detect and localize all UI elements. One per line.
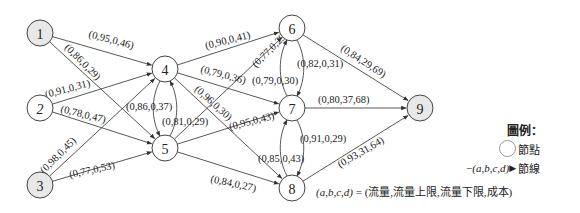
node-label: 2 — [37, 102, 44, 117]
node-label: 6 — [289, 22, 296, 37]
network-flow-diagram: (0,95,0,46)(0,86,0,29)(0,91,0,31)(0,78,0… — [0, 0, 580, 213]
edge-label-2-4: (0,91,0,31) — [44, 77, 92, 101]
node-1: 1 — [27, 20, 53, 46]
edge-label-6-7: (0,82,0,31) — [297, 58, 344, 70]
edge-7-6 — [280, 40, 287, 96]
edge-label-2-5: (0,78,0,47) — [59, 103, 107, 126]
edge-label-4-5: (0,86,0,37) — [126, 101, 173, 113]
node-label: 9 — [417, 102, 424, 117]
edge-label-3-5: (0,77,0,53) — [68, 159, 116, 180]
node-8: 8 — [279, 175, 305, 201]
edge-label-5-7: (0,95,0,43) — [228, 110, 276, 133]
edge-7-8 — [297, 120, 304, 176]
edge-label-5-8: (0,84,0,27) — [209, 173, 257, 194]
node-4: 4 — [152, 56, 178, 82]
edge-label-1-5: (0,86,0,29) — [62, 42, 104, 84]
edge-label-5-4: (0,81,0,29) — [162, 116, 209, 128]
node-5: 5 — [152, 135, 178, 161]
edge-label-7-9: (0,80,37,68) — [318, 94, 370, 106]
node-2: 2 — [27, 95, 53, 121]
node-label: 4 — [162, 63, 169, 78]
node-label: 1 — [37, 27, 44, 42]
node-label: 3 — [37, 179, 44, 194]
edge-label-8-7: (0,85,0,43) — [258, 153, 305, 165]
node-label: 5 — [162, 142, 169, 157]
edge-label-4-7: (0,79,0,36) — [199, 63, 247, 87]
node-3: 3 — [27, 172, 53, 198]
node-6: 6 — [279, 15, 305, 41]
edge-label-7-8: (0,91,0,29) — [300, 133, 347, 145]
node-label: 8 — [289, 182, 296, 197]
node-9: 9 — [407, 95, 433, 121]
edge-8-7 — [280, 120, 287, 176]
edge-label-7-6: (0,79,0,30) — [252, 75, 299, 87]
node-7: 7 — [279, 95, 305, 121]
node-label: 7 — [289, 102, 296, 117]
